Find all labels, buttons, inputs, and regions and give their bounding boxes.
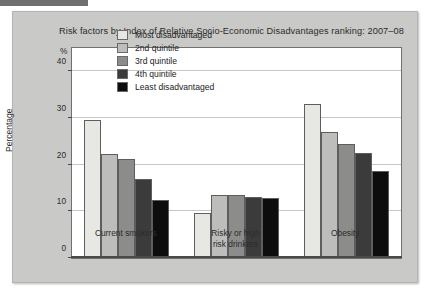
legend-swatch-icon (117, 82, 128, 92)
y-tick-label: 10 (57, 196, 66, 206)
bar (372, 171, 389, 258)
x-category-label: Risky or high risk drinkers (181, 228, 291, 250)
legend-item-label: 2nd quintile (135, 43, 179, 53)
chart-figure-panel: Risk factors by Index of Relative Socio-… (12, 11, 418, 283)
bar (101, 154, 118, 258)
scan-edge-strip (0, 0, 88, 6)
bar (338, 144, 355, 258)
legend-item-label: Least disadvantaged (135, 82, 214, 92)
x-category-label: Obesity (290, 228, 400, 239)
legend-swatch-icon (117, 43, 128, 53)
chart-legend: Most disadvantaged2nd quintile3rd quinti… (117, 28, 214, 93)
chart-title: Risk factors by Index of Relative Socio-… (59, 26, 409, 36)
bar (321, 132, 338, 258)
y-tick-label: 20 (57, 150, 66, 160)
x-category-label: Current smokers (71, 228, 181, 239)
y-tick-label: 0 (61, 243, 66, 253)
x-axis-baseline (71, 256, 402, 258)
legend-item: Least disadvantaged (117, 80, 214, 93)
bar (355, 153, 372, 258)
legend-item-label: Most disadvantaged (135, 30, 212, 40)
bar (135, 179, 152, 258)
bar (118, 159, 135, 258)
y-axis-title: Percentage (4, 109, 14, 152)
y-axis-unit-label: % (60, 46, 67, 56)
legend-swatch-icon (117, 56, 128, 66)
legend-item-label: 4th quintile (135, 69, 177, 79)
legend-item: 3rd quintile (117, 54, 214, 67)
bar-group (291, 48, 401, 258)
legend-item: Most disadvantaged (117, 28, 214, 41)
legend-swatch-icon (117, 69, 128, 79)
y-tick-label: 30 (57, 103, 66, 113)
legend-item: 2nd quintile (117, 41, 214, 54)
legend-item: 4th quintile (117, 67, 214, 80)
y-tick-label: 40 (57, 56, 66, 66)
legend-swatch-icon (117, 30, 128, 40)
legend-item-label: 3rd quintile (135, 56, 177, 66)
